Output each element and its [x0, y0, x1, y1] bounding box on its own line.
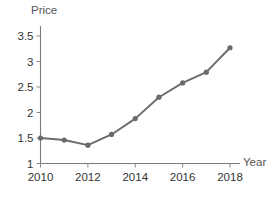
x-tick-label: 2016: [170, 171, 196, 183]
y-tick-label: 1.5: [18, 132, 34, 144]
data-point: [180, 80, 185, 85]
data-point: [62, 137, 67, 142]
y-tick-label: 3: [27, 56, 33, 68]
x-axis-title: Year: [243, 156, 266, 168]
data-point: [133, 116, 138, 121]
data-point: [109, 132, 114, 137]
x-tick-label: 2014: [122, 171, 148, 183]
data-point: [227, 45, 232, 50]
x-tick-label: 2010: [28, 171, 54, 183]
y-tick-label: 2: [27, 107, 33, 119]
chart-canvas: Price Year 11.522.533.5 2010201220142016…: [0, 0, 279, 200]
data-point: [204, 70, 209, 75]
y-tick-label: 2.5: [18, 81, 34, 93]
x-tick-label: 2018: [217, 171, 243, 183]
y-axis-title: Price: [31, 4, 57, 16]
data-point: [156, 95, 161, 100]
data-point: [85, 143, 90, 148]
line-chart: · · ▫ · Price Year 11.522.533.5 20102012…: [0, 0, 279, 200]
x-tick-label: 2012: [75, 171, 101, 183]
data-point: [38, 135, 43, 140]
y-tick-label: 1: [27, 158, 33, 170]
y-tick-label: 3.5: [18, 30, 34, 42]
